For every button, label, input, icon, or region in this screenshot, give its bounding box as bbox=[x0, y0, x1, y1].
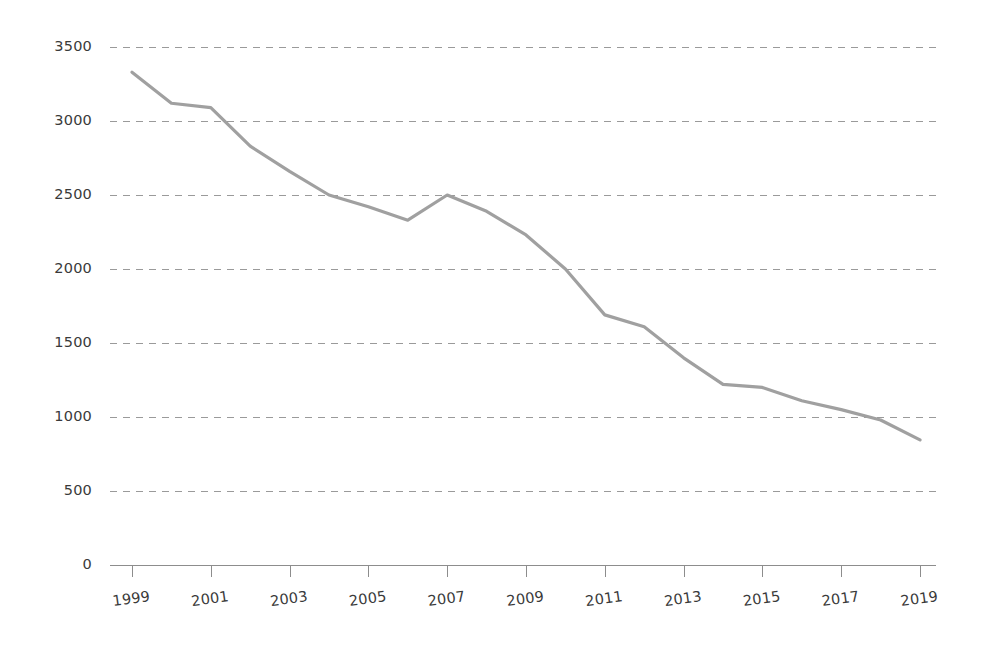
y-tick-label-3000: 3000 bbox=[54, 112, 92, 128]
data-series bbox=[132, 72, 920, 440]
y-tick-label-2000: 2000 bbox=[54, 260, 92, 276]
x-tick-labels: 1999200120032005200720092011201320152017… bbox=[112, 588, 940, 609]
x-axis bbox=[110, 566, 936, 577]
y-tick-label-1500: 1500 bbox=[54, 334, 92, 350]
x-tick-label-2007: 2007 bbox=[427, 588, 467, 609]
chart-canvas: 0500100015002000250030003500 19992001200… bbox=[0, 0, 985, 651]
y-tick-label-2500: 2500 bbox=[54, 186, 92, 202]
x-tick-label-2015: 2015 bbox=[742, 588, 782, 609]
x-tick-label-2011: 2011 bbox=[584, 588, 624, 609]
x-tick-label-2009: 2009 bbox=[506, 588, 546, 609]
gridlines bbox=[110, 48, 936, 492]
x-tick-label-2003: 2003 bbox=[269, 588, 309, 609]
x-tick-label-2017: 2017 bbox=[821, 588, 861, 609]
y-tick-label-3500: 3500 bbox=[54, 38, 92, 54]
y-tick-labels: 0500100015002000250030003500 bbox=[54, 38, 92, 572]
y-tick-label-500: 500 bbox=[64, 482, 92, 498]
x-tick-label-1999: 1999 bbox=[112, 588, 152, 609]
y-tick-label-0: 0 bbox=[83, 556, 92, 572]
x-tick-label-2001: 2001 bbox=[190, 588, 230, 609]
y-tick-label-1000: 1000 bbox=[54, 408, 92, 424]
series-line-1 bbox=[132, 72, 920, 440]
x-tick-label-2019: 2019 bbox=[900, 588, 940, 609]
x-tick-label-2005: 2005 bbox=[348, 588, 388, 609]
line-chart: 0500100015002000250030003500 19992001200… bbox=[0, 0, 985, 651]
x-tick-label-2013: 2013 bbox=[663, 588, 703, 609]
